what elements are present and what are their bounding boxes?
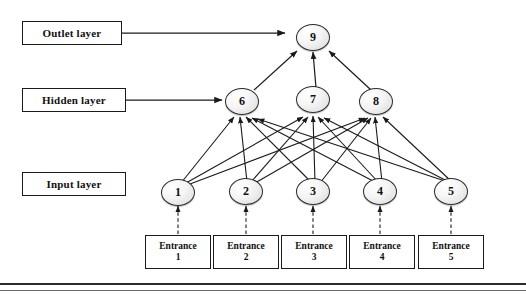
- entrance-4-line2: 4: [380, 252, 385, 263]
- node-6[interactable]: 6: [225, 88, 259, 115]
- label-outlet-layer-text: Outlet layer: [43, 27, 102, 39]
- entrance-4-line1: Entrance: [363, 241, 400, 252]
- node-9[interactable]: 9: [296, 24, 330, 51]
- node-2[interactable]: 2: [229, 178, 263, 205]
- label-outlet-layer: Outlet layer: [22, 21, 122, 45]
- node-1[interactable]: 1: [161, 179, 195, 206]
- entrance-box-3[interactable]: Entrance 3: [281, 235, 347, 269]
- entrance-1-line1: Entrance: [159, 241, 196, 252]
- entrance-2-line2: 2: [244, 252, 249, 263]
- node-7-label: 7: [310, 92, 316, 107]
- node-4[interactable]: 4: [363, 178, 397, 205]
- label-hidden-layer-text: Hidden layer: [42, 94, 106, 106]
- entrance-5-line2: 5: [449, 252, 454, 263]
- entrance-5-line1: Entrance: [432, 241, 469, 252]
- label-hidden-layer: Hidden layer: [22, 88, 126, 112]
- entrance-box-5[interactable]: Entrance 5: [418, 235, 484, 269]
- entrance-box-2[interactable]: Entrance 2: [213, 235, 279, 269]
- label-input-layer: Input layer: [22, 172, 126, 196]
- diagram-canvas: Outlet layer Hidden layer Input layer 9 …: [0, 0, 526, 295]
- node-8-label: 8: [373, 94, 379, 109]
- node-3[interactable]: 3: [296, 178, 330, 205]
- node-3-label: 3: [310, 184, 316, 199]
- node-1-label: 1: [175, 185, 181, 200]
- node-8[interactable]: 8: [359, 88, 393, 115]
- node-2-label: 2: [243, 184, 249, 199]
- entrance-box-4[interactable]: Entrance 4: [349, 235, 415, 269]
- node-7[interactable]: 7: [296, 86, 330, 113]
- entrance-3-line1: Entrance: [295, 241, 332, 252]
- entrance-1-line2: 1: [176, 252, 181, 263]
- node-4-label: 4: [377, 184, 383, 199]
- entrance-box-1[interactable]: Entrance 1: [145, 235, 211, 269]
- node-6-label: 6: [239, 94, 245, 109]
- divider-rule-bottom: [0, 290, 526, 291]
- node-9-label: 9: [310, 30, 316, 45]
- label-input-layer-text: Input layer: [46, 178, 101, 190]
- entrance-3-line2: 3: [312, 252, 317, 263]
- node-5[interactable]: 5: [434, 178, 468, 205]
- entrance-2-line1: Entrance: [227, 241, 264, 252]
- divider-rule-top: [0, 283, 526, 285]
- node-5-label: 5: [448, 184, 454, 199]
